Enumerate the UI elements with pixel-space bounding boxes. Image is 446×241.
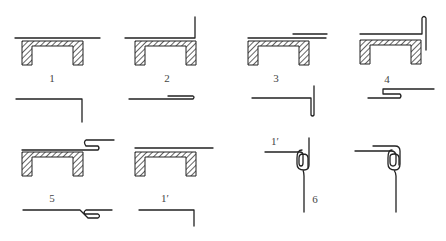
step-label-4: 4: [384, 73, 390, 85]
step-label-6: 6: [312, 193, 318, 205]
step-1-prime-upper: [135, 148, 213, 176]
sheet-bent-up: [125, 17, 195, 38]
die-block: [248, 41, 309, 65]
die-block: [135, 152, 196, 176]
die-block: [22, 41, 83, 65]
step-label-1-prime: 1′: [161, 192, 169, 204]
sheet-z-fold: [22, 140, 114, 150]
step-1-upper: [15, 38, 100, 65]
step-1-prime-profile: [139, 210, 194, 226]
step-3-profile: [252, 86, 314, 116]
step-label-5: 5: [49, 192, 55, 204]
step-1-profile: [16, 99, 82, 122]
seam-folding-diagram: 1 2 3 4 5 1′ 1′ 6: [0, 0, 446, 241]
step-4-upper: [360, 17, 426, 65]
final-inner-sheet: [355, 151, 399, 166]
die-block: [360, 40, 421, 64]
step-label-1: 1: [49, 72, 55, 84]
step-5-profile: [23, 210, 112, 218]
die-block: [22, 152, 83, 176]
step-label-2: 2: [164, 72, 170, 84]
step-6-seam: [297, 138, 309, 212]
step-label-3: 3: [273, 72, 279, 84]
die-block: [135, 41, 196, 65]
step-label-1-prime-joined: 1′: [271, 135, 279, 147]
step-3-upper: [248, 34, 327, 65]
step-4-profile: [368, 89, 434, 98]
step-2-profile: [129, 96, 194, 99]
step-2-upper: [125, 17, 196, 65]
step-5-upper: [22, 140, 114, 176]
step-6-outer-sheet: [265, 152, 308, 168]
